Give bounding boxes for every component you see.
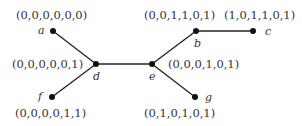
node-e-vector: (0,0,0,1,0,1) <box>168 57 239 71</box>
node-d <box>93 61 99 67</box>
node-c-name: c <box>265 25 271 38</box>
node-d-vector: (0,0,0,0,0,1) <box>12 57 83 71</box>
node-b-vector: (0,0,1,1,0,1) <box>144 8 215 22</box>
node-a <box>50 28 56 34</box>
node-e <box>149 61 155 67</box>
node-f-name: f <box>37 90 44 103</box>
node-c-vector: (1,0,1,1,0,1) <box>224 8 295 22</box>
node-g <box>192 94 198 100</box>
node-a-vector: (0,0,0,0,0,0) <box>16 8 87 22</box>
node-g-name: g <box>205 91 212 104</box>
tree-diagram: a b c d e f g (0,0,0,0,0,0) (0,0,1,1,0,1… <box>0 0 302 126</box>
node-e-name: e <box>149 70 156 83</box>
node-d-name: d <box>93 70 100 83</box>
node-a-name: a <box>38 24 45 37</box>
node-f <box>49 94 55 100</box>
node-f-vector: (0,0,0,0,1,1) <box>15 106 86 120</box>
node-c <box>250 28 256 34</box>
node-b-name: b <box>194 37 201 50</box>
node-g-vector: (0,1,0,1,0,1) <box>144 106 215 120</box>
node-b <box>193 28 199 34</box>
